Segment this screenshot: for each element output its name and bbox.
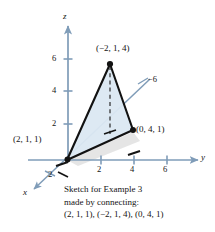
y-tick-2: 2	[97, 165, 101, 174]
z-tick-6: 6	[52, 54, 56, 63]
y-axis	[28, 156, 198, 165]
x-tick-negative-6: −6	[148, 75, 157, 84]
coordinate-sketch-figure: z y x 6 4 2 2 4 6 2 −6 (−2, 1, 4) (0, 4,…	[0, 0, 215, 232]
z-tick-2: 2	[52, 119, 56, 128]
z-axis	[64, 26, 73, 160]
caption-line-2: made by connecting:	[64, 196, 214, 209]
x-tick-2: 2	[48, 170, 52, 179]
point-label-b: (−2, 1, 4)	[96, 44, 130, 53]
y-axis-label: y	[201, 153, 205, 162]
caption-line-1: Sketch for Example 3	[64, 183, 214, 196]
y-tick-6: 6	[163, 165, 167, 174]
caption-line-3: (2, 1, 1), (−2, 1, 4), (0, 4, 1)	[64, 208, 214, 221]
x-axis-label: x	[23, 188, 27, 197]
figure-caption: Sketch for Example 3 made by connecting:…	[64, 183, 214, 221]
z-tick-4: 4	[52, 86, 56, 95]
point-label-a: (2, 1, 1)	[13, 135, 42, 144]
y-tick-4: 4	[130, 165, 134, 174]
z-axis-label: z	[63, 12, 67, 21]
point-label-c: (0, 4, 1)	[136, 125, 165, 134]
